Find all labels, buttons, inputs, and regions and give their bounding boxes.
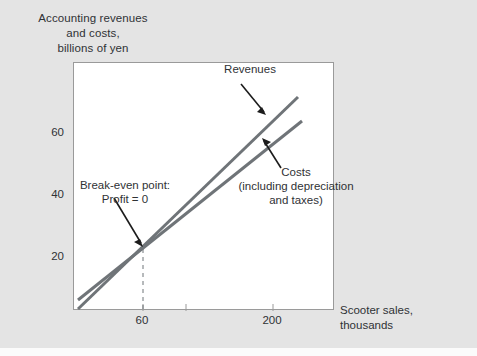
annotation-costs-line-2: (including depreciation: [226, 179, 366, 193]
annotation-breakeven-line-2: Profit = 0: [55, 192, 195, 206]
ytick-label-20: 20: [34, 250, 64, 262]
x-axis-label-line-2: thousands: [340, 318, 413, 333]
figure-panel: Accounting revenues and costs, billions …: [0, 0, 477, 356]
annotation-breakeven: Break-even point: Profit = 0: [55, 178, 195, 206]
chart-title-line-2: and costs,: [8, 26, 178, 41]
ytick-label-60: 60: [34, 126, 64, 138]
annotation-costs-line-1: Costs: [226, 165, 366, 179]
x-axis-label-line-1: Scooter sales,: [340, 303, 413, 318]
revenues-annotation-arrow: [241, 84, 266, 115]
chart-title: Accounting revenues and costs, billions …: [8, 11, 178, 56]
chart-title-line-1: Accounting revenues: [8, 11, 178, 26]
annotation-revenues: Revenues: [210, 62, 290, 76]
annotation-costs: Costs (including depreciation and taxes): [226, 165, 366, 207]
annotation-revenues-line-1: Revenues: [210, 62, 290, 76]
x-axis-ticks: [143, 304, 273, 311]
chart-title-line-3: billions of yen: [8, 41, 178, 56]
annotation-breakeven-line-1: Break-even point:: [55, 178, 195, 192]
costs-annotation-arrow: [262, 138, 281, 168]
annotation-costs-line-3: and taxes): [226, 193, 366, 207]
xtick-label-60: 60: [122, 314, 162, 326]
xtick-label-200: 200: [252, 314, 292, 326]
figure-bottom-strip: [0, 348, 477, 356]
x-axis-label: Scooter sales, thousands: [340, 303, 413, 333]
